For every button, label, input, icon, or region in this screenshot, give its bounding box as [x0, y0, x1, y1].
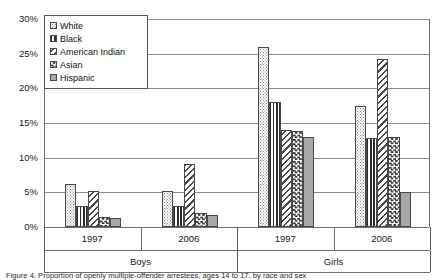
- legend-item-label: Black: [60, 34, 82, 44]
- category-label: 2006: [334, 227, 431, 250]
- axis-separator: [334, 227, 335, 250]
- bar: [162, 191, 173, 227]
- bar: [88, 191, 99, 227]
- y-axis-tick-label: 5%: [4, 187, 38, 197]
- axis-separator: [430, 251, 431, 272]
- legend-item: Hispanic: [50, 71, 143, 84]
- bar: [99, 217, 110, 227]
- bar: [388, 137, 399, 227]
- bar: [303, 137, 314, 227]
- bar: [377, 59, 388, 227]
- axis-separator: [44, 251, 45, 272]
- legend-item-label: Hispanic: [60, 73, 95, 83]
- legend: WhiteBlackAmerican IndianAsianHispanic: [44, 15, 148, 89]
- bar: [281, 130, 292, 227]
- bar: [173, 206, 184, 227]
- supercategory-label: Boys: [44, 251, 237, 272]
- bar-group: [335, 19, 432, 227]
- bar: [207, 215, 218, 227]
- axis-separator: [430, 227, 431, 250]
- bar: [184, 164, 195, 227]
- bar: [65, 184, 76, 227]
- y-axis-tick-label: 15%: [4, 118, 38, 128]
- legend-swatch-icon: [50, 48, 57, 55]
- category-label: 1997: [237, 227, 334, 250]
- category-label: 1997: [44, 227, 141, 250]
- bar: [258, 47, 269, 227]
- bar: [110, 218, 121, 227]
- axis-separator: [44, 227, 45, 250]
- legend-swatch-icon: [50, 61, 57, 68]
- bar: [355, 106, 366, 227]
- category-axis: 1997200619972006: [44, 227, 430, 251]
- bar: [76, 206, 87, 227]
- legend-item: Black: [50, 32, 143, 45]
- y-axis-tick-label: 20%: [4, 83, 38, 93]
- y-axis: 30%25%20%15%10%5%0%: [0, 0, 38, 280]
- legend-item-label: Asian: [60, 60, 83, 70]
- legend-item: American Indian: [50, 45, 143, 58]
- grouped-bar-chart: 30%25%20%15%10%5%0% 1997200619972006 Boy…: [0, 0, 440, 280]
- axis-separator: [141, 227, 142, 250]
- bar: [400, 192, 411, 227]
- legend-swatch-icon: [50, 22, 57, 29]
- legend-swatch-icon: [50, 35, 57, 42]
- y-axis-tick-label: 30%: [4, 14, 38, 24]
- legend-item-label: American Indian: [60, 47, 125, 57]
- axis-separator: [237, 251, 238, 272]
- legend-swatch-icon: [50, 74, 57, 81]
- legend-item: White: [50, 19, 143, 32]
- supercategory-axis: BoysGirls: [44, 251, 430, 273]
- bar: [292, 131, 303, 227]
- bar-group: [142, 19, 239, 227]
- y-axis-tick-label: 10%: [4, 153, 38, 163]
- supercategory-label: Girls: [237, 251, 430, 272]
- figure-caption: Figure 4. Proportion of openly multiple-…: [6, 271, 440, 280]
- bar: [195, 213, 206, 227]
- category-label: 2006: [141, 227, 238, 250]
- bar: [366, 138, 377, 227]
- y-axis-tick-label: 25%: [4, 49, 38, 59]
- y-axis-tick-label: 0%: [4, 222, 38, 232]
- axis-separator: [237, 227, 238, 250]
- bar: [269, 102, 280, 227]
- legend-item: Asian: [50, 58, 143, 71]
- legend-item-label: White: [60, 21, 83, 31]
- bar-group: [238, 19, 335, 227]
